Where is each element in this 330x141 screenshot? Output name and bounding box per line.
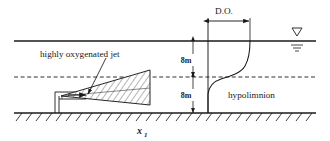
x1-axis-label: x 1 (136, 125, 148, 139)
x1-axis-label-subscript: 1 (144, 131, 148, 139)
depth-label-lower: 8m (181, 91, 192, 100)
highly-oxygenated-jet-region (55, 64, 160, 114)
jet-label: highly oxygenated jet (40, 49, 120, 59)
water-level-symbol-icon (291, 28, 303, 51)
x1-axis-label-main: x (136, 125, 142, 136)
schematic-canvas: highly oxygenated jet D.O. 8m (0, 0, 330, 141)
hypolimnion-label: hypolimnion (228, 90, 275, 100)
lake-bed-hatching (16, 113, 312, 121)
do-label: D.O. (215, 6, 233, 16)
figure-lake-do-schematic: highly oxygenated jet D.O. 8m (0, 0, 330, 141)
depth-label-upper: 8m (181, 56, 192, 65)
